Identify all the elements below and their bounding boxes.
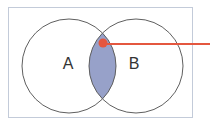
set-a-label: A: [63, 55, 74, 72]
pointer-dot: [99, 39, 108, 48]
venn-diagram-figure: A B: [0, 0, 210, 124]
venn-diagram-canvas: A B: [0, 0, 210, 124]
set-b-label: B: [129, 55, 140, 72]
